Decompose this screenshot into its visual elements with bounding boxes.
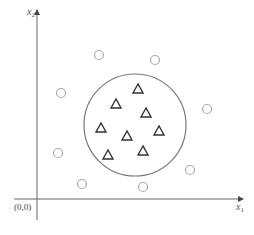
origin-label: (0,0) [14,202,31,212]
circle-class-points [54,51,212,192]
triangle-point [133,84,143,93]
triangle-point [122,131,132,140]
triangle-point [154,126,164,135]
circle-point [186,166,195,175]
triangle-point [96,123,106,132]
triangle-point [138,146,148,155]
diagram-canvas [0,0,254,235]
x-axis-label: x1 [236,201,244,214]
circle-point [78,180,87,189]
circle-point [95,51,104,60]
triangle-point [141,108,151,117]
triangle-point [111,99,121,108]
circle-point [57,89,66,98]
circle-point [54,149,63,158]
circle-point [203,105,212,114]
circle-point [151,56,160,65]
circle-point [139,183,148,192]
y-axis-label: x2 [27,6,35,19]
triangle-point [103,150,113,159]
triangle-class-points [96,84,164,159]
